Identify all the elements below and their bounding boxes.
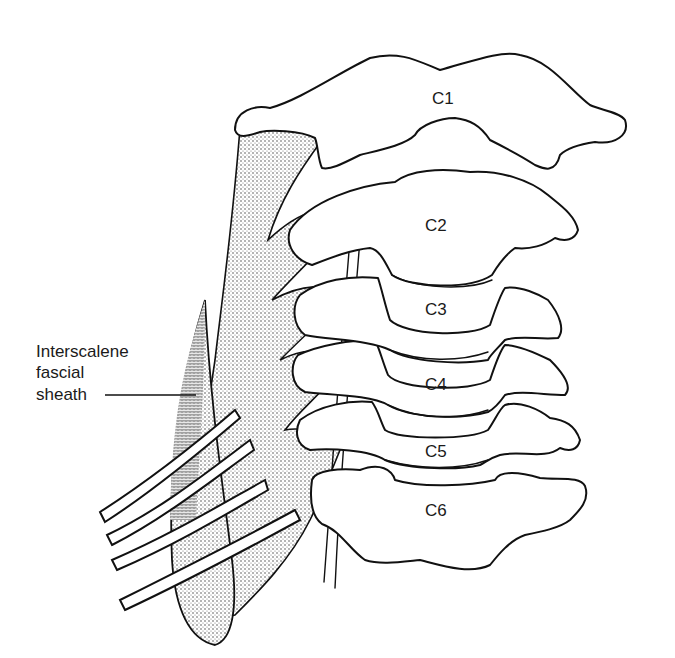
callout-line-2: fascial: [36, 363, 84, 382]
cervical-spine-diagram: C1 C2 C3 C4 C5 C6 Interscalene fascial s…: [0, 0, 675, 658]
label-c4: C4: [425, 375, 447, 394]
label-c5: C5: [425, 442, 447, 461]
diagram-canvas: C1 C2 C3 C4 C5 C6 Interscalene fascial s…: [0, 0, 675, 658]
label-c3: C3: [425, 300, 447, 319]
label-c2: C2: [425, 216, 447, 235]
callout-line-1: Interscalene: [36, 342, 129, 361]
sheath-callout: Interscalene fascial sheath: [36, 342, 196, 404]
label-c6: C6: [425, 501, 447, 520]
vertebra-c6: [311, 467, 586, 570]
label-c1: C1: [432, 89, 454, 108]
callout-line-3: sheath: [36, 385, 87, 404]
